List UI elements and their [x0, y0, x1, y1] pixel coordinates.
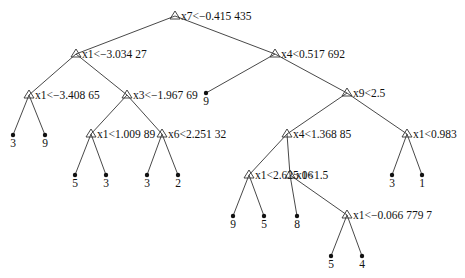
split-node: x1<0.983 — [402, 128, 457, 140]
leaf-class-label: 9 — [203, 95, 209, 107]
split-node: x1<1.009 89 — [86, 128, 155, 140]
split-condition-label: x7<−0.415 435 — [181, 10, 252, 22]
split-node: x7<−0.415 435 — [170, 10, 252, 22]
leaf-class-label: 3 — [10, 137, 16, 149]
split-condition-label: x1<−3.034 27 — [82, 48, 147, 60]
leaf-node: 4 — [359, 254, 365, 270]
split-condition-label: x4<0.517 692 — [281, 48, 345, 60]
leaf-class-label: 5 — [72, 177, 78, 189]
split-node: x4<1.368 85 — [282, 128, 351, 140]
split-condition-label: x4<1.368 85 — [293, 128, 351, 140]
tree-edge — [249, 175, 264, 216]
leaf-node: 3 — [10, 133, 16, 149]
leaf-node: 3 — [103, 173, 109, 189]
leaf-class-label: 1 — [419, 177, 425, 189]
tree-edge — [331, 215, 347, 256]
leaf-node: 9 — [42, 133, 48, 149]
leaf-class-label: 8 — [294, 218, 300, 230]
leaf-node: 2 — [175, 173, 181, 189]
decision-tree: x7<−0.415 435x1<−3.034 27x4<0.517 692x1<… — [0, 0, 465, 278]
tree-edge — [29, 95, 45, 135]
leaf-node: 8 — [294, 214, 300, 230]
triangle-node-icon — [24, 90, 34, 98]
tree-edge — [407, 134, 422, 175]
triangle-node-icon — [342, 88, 352, 96]
split-condition-label: x1<−0.066 779 7 — [353, 209, 432, 221]
triangle-node-icon — [402, 129, 412, 137]
leaf-class-label: 5 — [261, 218, 267, 230]
tree-edge — [13, 95, 29, 135]
leaf-class-label: 4 — [359, 258, 365, 270]
leaf-node: 5 — [328, 254, 334, 270]
leaf-class-label: 5 — [328, 258, 334, 270]
tree-edge — [290, 175, 347, 215]
leaf-class-label: 2 — [175, 177, 181, 189]
leaf-node: 3 — [144, 173, 150, 189]
split-node: x6<2.251 32 — [157, 128, 226, 140]
tree-edge — [91, 134, 106, 175]
leaf-node: 5 — [261, 214, 267, 230]
split-condition-label: x1<1.009 89 — [97, 128, 155, 140]
leaf-class-label: 3 — [103, 177, 109, 189]
split-node: x3<−1.967 69 — [122, 89, 198, 101]
tree-edge — [162, 134, 178, 175]
tree-nodes: x7<−0.415 435x1<−3.034 27x4<0.517 692x1<… — [10, 10, 457, 270]
tree-edge — [392, 134, 407, 175]
split-node: x9<2.5 — [342, 87, 386, 99]
split-node: x4<0.517 692 — [270, 48, 345, 60]
split-condition-label: x1<−3.408 65 — [35, 89, 100, 101]
triangle-node-icon — [342, 210, 352, 218]
split-node: x1<−3.034 27 — [71, 48, 147, 60]
split-node: x1<−0.066 779 7 — [342, 209, 432, 221]
leaf-node: 1 — [419, 173, 425, 189]
split-condition-label: x6<2.251 32 — [168, 128, 226, 140]
tree-edge — [347, 215, 362, 256]
split-node: x1<−3.408 65 — [24, 89, 100, 101]
leaf-class-label: 9 — [42, 137, 48, 149]
split-condition-label: x9<2.5 — [353, 87, 386, 99]
triangle-node-icon — [122, 90, 132, 98]
leaf-node: 5 — [72, 173, 78, 189]
split-condition-label: x1<1.5 — [296, 169, 329, 181]
split-condition-label: x1<0.983 — [413, 128, 457, 140]
tree-edge — [290, 175, 297, 216]
split-condition-label: x3<−1.967 69 — [133, 89, 198, 101]
leaf-node: 9 — [230, 214, 236, 230]
tree-edge — [206, 54, 275, 93]
tree-edge — [147, 134, 162, 175]
tree-edge — [347, 93, 407, 134]
leaf-node: 9 — [203, 91, 209, 107]
leaf-class-label: 3 — [389, 177, 395, 189]
tree-edge — [75, 134, 91, 175]
leaf-node: 3 — [389, 173, 395, 189]
leaf-class-label: 3 — [144, 177, 150, 189]
leaf-class-label: 9 — [230, 218, 236, 230]
tree-edge — [233, 175, 249, 216]
